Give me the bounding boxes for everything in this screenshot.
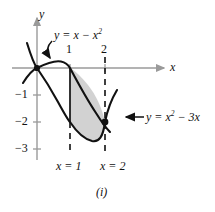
- figure-canvas: [0, 0, 215, 212]
- y-tick-label-minus-3: −3: [15, 142, 28, 154]
- equation-label-upper-curve: y = x − x2: [54, 28, 102, 41]
- equation-upper-text: y = x − x: [54, 28, 98, 42]
- equation-lower-tail: − 3x: [174, 110, 199, 124]
- x-tick-label-1: 1: [66, 43, 72, 55]
- y-tick-label-minus-2: −2: [15, 115, 28, 127]
- figure-caption: (i): [96, 186, 107, 198]
- x-axis-label: x: [170, 61, 175, 73]
- equation-label-lower-curve: y = x2 − 3x: [146, 110, 200, 123]
- equation-lower-text: y = x: [146, 110, 171, 124]
- vertical-line-label-x1: x = 1: [56, 160, 81, 172]
- equation-upper-exponent: 2: [98, 27, 102, 36]
- y-axis-label: y: [39, 8, 44, 20]
- y-tick-label-minus-1: −1: [15, 88, 28, 100]
- x-tick-label-2: 2: [101, 43, 107, 55]
- vertical-line-label-x2: x = 2: [100, 160, 125, 172]
- intersection-point-2-minus2: [102, 119, 109, 126]
- intersection-point-origin: [34, 65, 40, 71]
- arrow-to-upper-curve: [48, 41, 52, 58]
